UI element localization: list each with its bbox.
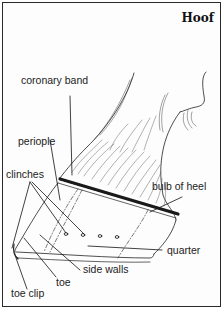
leader-clinches-3 <box>12 182 30 248</box>
hoof-front-wall <box>15 183 58 258</box>
pastern-back-outline <box>180 72 206 112</box>
leader-coronary-band <box>70 96 72 175</box>
leader-toe <box>24 238 56 277</box>
leader-clinches-1 <box>30 182 66 233</box>
heel-outline <box>161 112 180 220</box>
label-quarter: quarter <box>167 245 200 256</box>
label-periople: periople <box>18 136 55 147</box>
shoe-line <box>18 258 150 262</box>
label-bulb-of-heel: bulb of heel <box>152 181 206 192</box>
label-toe: toe <box>56 277 71 288</box>
diagram-title: Hoof <box>181 11 214 25</box>
leader-toe-clip <box>16 258 27 289</box>
label-side-walls: side walls <box>83 264 129 275</box>
label-clinches: clinches <box>6 169 44 180</box>
label-toe-clip: toe clip <box>11 288 44 299</box>
label-coronary-band: coronary band <box>21 75 88 86</box>
clinch-holes <box>64 233 119 239</box>
